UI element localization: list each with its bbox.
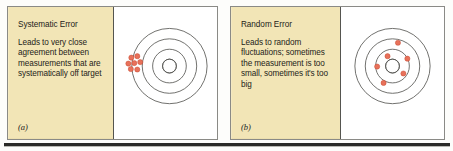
shot-marker (138, 60, 143, 65)
target-ring-outer-b (355, 28, 430, 103)
panel-b-text-pane: Random Error Leads to random fluctuation… (231, 7, 341, 139)
target-diagram-b (341, 7, 444, 139)
shot-marker (381, 80, 386, 85)
panel-a-text-pane: Systematic Error Leads to very close agr… (8, 7, 114, 139)
target-ring-4-b (365, 39, 419, 93)
shot-marker (126, 61, 131, 66)
target-ring-outer-a (132, 28, 207, 103)
panel-random-error: Random Error Leads to random fluctuation… (230, 6, 445, 140)
shot-marker (395, 40, 400, 45)
panel-b-title: Random Error (241, 20, 331, 30)
shot-marker (135, 67, 140, 72)
target-ring-3-b (376, 49, 410, 83)
shot-marker (128, 66, 133, 71)
target-ring-3-a (153, 49, 187, 83)
shot-marker (375, 64, 380, 69)
footer-rule-shadow (4, 146, 450, 147)
shot-marker (385, 54, 390, 59)
target-rings-b (355, 28, 430, 103)
target-ring-bullseye-a (163, 59, 177, 73)
shot-marker (401, 71, 406, 76)
shot-group-a (126, 54, 143, 73)
target-diagram-a (114, 7, 217, 139)
shot-marker (405, 56, 410, 61)
shot-marker (129, 55, 134, 60)
shot-marker (135, 54, 140, 59)
shot-marker (132, 61, 137, 66)
panel-a-label: (a) (18, 122, 28, 132)
target-rings-a (132, 28, 207, 103)
panel-systematic-error: Systematic Error Leads to very close agr… (7, 6, 218, 140)
panel-b-body: Leads to random fluctuations; sometimes … (241, 38, 331, 90)
panel-a-body: Leads to very close agreement between me… (18, 38, 104, 80)
error-types-figure: Systematic Error Leads to very close agr… (0, 0, 453, 151)
target-ring-bullseye-b (386, 59, 400, 73)
panel-a-target-pane (114, 7, 217, 139)
panel-b-target-pane (341, 7, 444, 139)
target-ring-4-a (142, 39, 196, 93)
panel-a-title: Systematic Error (18, 20, 104, 30)
shot-group-b (375, 40, 410, 85)
panel-b-label: (b) (241, 122, 251, 132)
